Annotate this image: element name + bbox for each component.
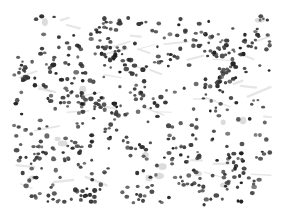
- nuclei-field: [0, 0, 282, 223]
- micrograph-image: [0, 0, 282, 223]
